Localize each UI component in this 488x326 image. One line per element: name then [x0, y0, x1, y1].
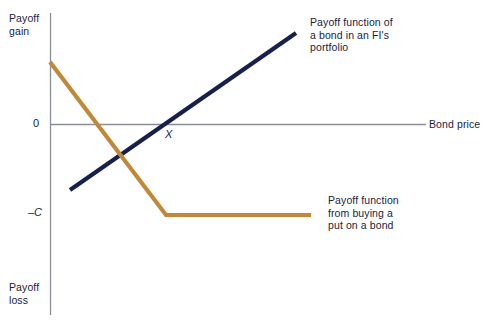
y-axis-gain-label: Payoff gain [9, 12, 39, 37]
put-payoff-line [50, 62, 311, 215]
x-axis-strike-price-label: X [165, 128, 172, 140]
legend-bond-payoff-text: Payoff function of a bond in an FI's por… [310, 16, 393, 54]
payoff-plot-canvas [0, 0, 488, 326]
bond-payoff-line [70, 33, 296, 190]
y-axis-loss-label: Payoff loss [9, 281, 39, 306]
y-axis-zero-tick-label: 0 [33, 117, 39, 129]
legend-put-payoff-text: Payoff function from buying a put on a b… [328, 194, 399, 232]
x-axis-label: Bond price [429, 118, 480, 131]
y-axis-premium-tick-label: –C [28, 206, 42, 218]
payoff-diagram-figure: Payoff gain Payoff loss 0 –C X Bond pric… [0, 0, 488, 326]
